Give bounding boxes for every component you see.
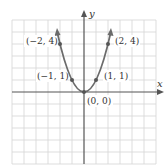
x-axis-label: x (157, 78, 163, 89)
parabola-graph: (−2, 4) (2, 4) (−1, 1) (1, 1) (0, 0) x y (0, 0, 167, 168)
label-0-0: (0, 0) (87, 96, 111, 106)
point-m2-4 (58, 42, 62, 46)
point-m1-1 (70, 78, 74, 82)
y-axis-label: y (88, 8, 95, 19)
y-axis-arrow-icon (81, 10, 87, 17)
label-1-1: (1, 1) (104, 71, 128, 81)
point-2-4 (106, 42, 110, 46)
x-axis-arrow-icon (157, 89, 164, 95)
label-2-4: (2, 4) (115, 36, 139, 46)
label-m2-4: (−2, 4) (26, 36, 58, 46)
point-0-0 (82, 90, 86, 94)
point-1-1 (94, 78, 98, 82)
label-m1-1: (−1, 1) (37, 71, 69, 81)
